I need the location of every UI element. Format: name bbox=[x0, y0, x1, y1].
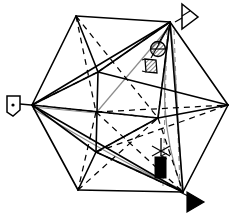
hatched-circle-icon bbox=[151, 42, 166, 57]
polyhedron-diagram bbox=[0, 0, 234, 215]
figure-canvas: Polyhedron line diagram with annotation … bbox=[0, 0, 234, 215]
